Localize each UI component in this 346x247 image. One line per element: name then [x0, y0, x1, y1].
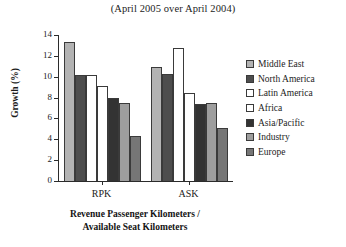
legend-label: Asia/Pacific [258, 118, 304, 128]
legend-label: Africa [258, 103, 282, 113]
y-tick-mark [54, 98, 58, 99]
legend-item[interactable]: North America [246, 72, 344, 87]
y-tick-label: 6 [30, 113, 52, 122]
y-tick-mark [54, 56, 58, 57]
bar [130, 136, 141, 181]
bar [184, 93, 195, 181]
x-axis-title-line2: Available Seat Kilometers [83, 222, 188, 232]
legend-item[interactable]: Latin America [246, 86, 344, 101]
y-tick-mark [54, 160, 58, 161]
legend-swatch-icon [246, 119, 254, 127]
bar [173, 48, 184, 181]
legend-item[interactable]: Industry [246, 130, 344, 145]
y-tick-mark [54, 139, 58, 140]
y-tick-mark [54, 118, 58, 119]
bar [86, 75, 97, 181]
y-tick-label: 8 [30, 93, 52, 102]
bar-group [151, 35, 228, 181]
legend-label: Latin America [258, 88, 313, 98]
bar [119, 103, 130, 181]
y-tick-label: 2 [30, 155, 52, 164]
legend-label: Europe [258, 147, 285, 157]
bar [206, 103, 217, 181]
legend-item[interactable]: Europe [246, 145, 344, 160]
x-axis-title: Revenue Passenger Kilometers / Available… [30, 208, 240, 234]
legend-swatch-icon [246, 148, 254, 156]
x-tick-mark [189, 181, 190, 185]
bar [162, 74, 173, 181]
y-tick-mark [54, 77, 58, 78]
y-tick-mark [54, 181, 58, 182]
bar [217, 128, 228, 181]
x-tick-mark [102, 181, 103, 185]
legend-item[interactable]: Middle East [246, 57, 344, 72]
bar-group [64, 35, 141, 181]
y-axis-title: Growth (%) [10, 58, 20, 128]
bar [108, 98, 119, 181]
y-tick-label: 14 [30, 30, 52, 39]
legend-swatch-icon [246, 104, 254, 112]
legend-label: Industry [258, 132, 290, 142]
bar [75, 75, 86, 181]
bars-layer [59, 35, 233, 181]
x-tick-label: ASK [159, 188, 219, 199]
bar [195, 104, 206, 181]
y-tick-label: 12 [30, 51, 52, 60]
y-tick-label: 0 [30, 176, 52, 185]
bar [97, 86, 108, 181]
plot-area [58, 35, 233, 182]
legend-item[interactable]: Africa [246, 101, 344, 116]
legend-label: Middle East [258, 59, 304, 69]
bar [151, 67, 162, 181]
x-tick-label: RPK [72, 188, 132, 199]
legend-label: North America [258, 74, 315, 84]
legend-swatch-icon [246, 89, 254, 97]
x-axis-title-line1: Revenue Passenger Kilometers / [70, 209, 200, 219]
bar [64, 42, 75, 181]
legend-swatch-icon [246, 75, 254, 83]
legend-swatch-icon [246, 60, 254, 68]
legend-item[interactable]: Asia/Pacific [246, 115, 344, 130]
legend-swatch-icon [246, 133, 254, 141]
y-tick-label: 10 [30, 72, 52, 81]
y-tick-label: 4 [30, 134, 52, 143]
y-tick-mark [54, 35, 58, 36]
chart-legend: Middle EastNorth AmericaLatin AmericaAfr… [246, 57, 344, 159]
growth-bar-chart: (April 2005 over April 2004) 02468101214… [0, 0, 346, 247]
